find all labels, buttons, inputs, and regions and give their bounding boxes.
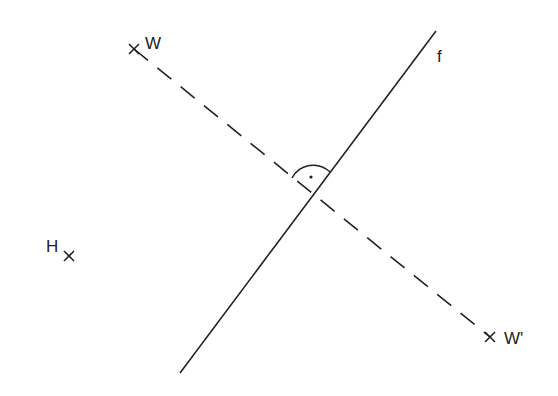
label-f: f <box>437 47 442 66</box>
point-wprime-cross-icon <box>485 332 495 342</box>
label-h: H <box>46 237 58 256</box>
diagram-canvas: f W W' H <box>0 0 558 396</box>
label-wprime: W' <box>504 329 523 348</box>
point-w-cross-icon <box>129 44 139 54</box>
point-h-cross-icon <box>64 251 74 261</box>
segment-w-wprime <box>134 49 490 337</box>
label-w: W <box>145 34 161 53</box>
right-angle-dot <box>309 175 312 178</box>
line-f <box>180 31 436 373</box>
